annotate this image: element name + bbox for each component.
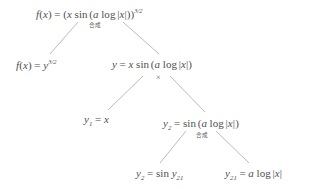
- node-y1: y1=x: [84, 114, 109, 128]
- edge-label-composition-bottom: 合成: [196, 133, 208, 139]
- edge-y2-to-sin: [160, 131, 186, 163]
- edge-product-to-y1: [108, 76, 143, 110]
- edge-product-to-y2: [170, 76, 205, 112]
- edge-root-to-product: [123, 22, 159, 54]
- node-outer-power: f(x)=y3/2: [16, 59, 56, 71]
- edge-label-composition-top: 合成: [89, 23, 101, 29]
- node-y21-log: y21=alog|x|: [225, 168, 282, 182]
- edge-y2-to-log: [216, 131, 249, 163]
- node-product: y=xsin(alog|x|): [112, 59, 192, 70]
- node-root: f(x)=(xsin(alog|x|))3/2: [36, 8, 143, 20]
- edge-root-to-outer-power: [50, 22, 78, 54]
- tree-edges-canvas: [0, 0, 318, 189]
- edge-label-product: ×: [156, 74, 161, 82]
- node-y2: y2=sin(alog|x|): [163, 118, 239, 132]
- node-y2-sin: y2=siny21: [136, 168, 183, 182]
